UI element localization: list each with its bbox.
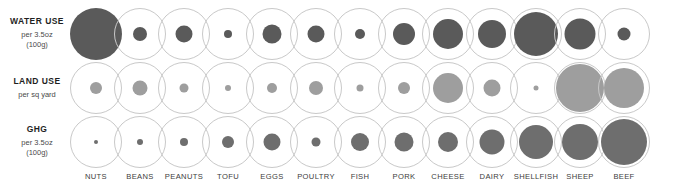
bubble-ghg (351, 133, 369, 151)
bubble-land-use (225, 85, 231, 91)
row-label-ghg: GHGper 3.5oz(100g) (0, 124, 74, 158)
bubble-water-use (355, 29, 365, 39)
bubble-land-use (357, 85, 364, 92)
bubble-water-use (308, 26, 325, 43)
metric-unit-secondary-ghg: (100g) (0, 148, 74, 158)
bubble-water-use (224, 30, 232, 38)
bubble-ghg (264, 134, 281, 151)
metric-unit-secondary-water: (100g) (0, 40, 74, 50)
bubble-land-use (180, 84, 189, 93)
bubble-land-use (309, 81, 323, 95)
bubble-ghg (312, 138, 321, 147)
bubble-water-use (393, 23, 415, 45)
column-label-beef[interactable]: BEEF (584, 172, 664, 182)
bubble-land-use (556, 64, 604, 112)
bubble-land-use (398, 82, 410, 94)
bubble-ghg (94, 140, 98, 144)
metric-unit-ghg: per 3.5oz (0, 138, 74, 148)
bubble-water-use (565, 19, 596, 50)
bubble-land-use (90, 82, 102, 94)
bubble-land-use (133, 81, 148, 96)
metric-title-ghg: GHG (0, 124, 74, 135)
bubble-cell[interactable] (598, 116, 650, 168)
bubble-ghg (395, 133, 414, 152)
bubble-water-use (176, 26, 193, 43)
bubble-land-use (433, 73, 463, 103)
bubble-water-use (263, 25, 282, 44)
bubble-water-use (514, 12, 558, 56)
bubble-land-use (267, 83, 277, 93)
bubble-land-use (604, 68, 644, 108)
bubble-water-use (133, 27, 147, 41)
bubble-cell[interactable] (598, 8, 650, 60)
bubble-ghg (137, 139, 143, 145)
bubble-water-use (618, 28, 631, 41)
bubble-ghg (222, 136, 234, 148)
row-label-land: LAND USEper sq yard (0, 76, 74, 100)
bubble-ghg (562, 124, 598, 160)
bubble-land-use (484, 80, 501, 97)
bubble-ghg (438, 132, 458, 152)
bubble-ghg (180, 138, 188, 146)
impact-bubble-chart: WATER USEper 3.5oz(100g)LAND USEper sq y… (0, 0, 680, 192)
bubble-cell[interactable] (598, 62, 650, 114)
bubble-ghg (601, 119, 647, 165)
bubble-water-use (433, 19, 463, 49)
metric-unit-water: per 3.5oz (0, 30, 74, 40)
bubble-ghg (519, 125, 553, 159)
metric-unit-land: per sq yard (0, 90, 74, 100)
row-label-water: WATER USEper 3.5oz(100g) (0, 16, 74, 50)
metric-title-water: WATER USE (0, 16, 74, 27)
bubble-water-use (478, 20, 506, 48)
bubble-land-use (534, 86, 539, 91)
bubble-ghg (480, 130, 505, 155)
metric-title-land: LAND USE (0, 76, 74, 87)
